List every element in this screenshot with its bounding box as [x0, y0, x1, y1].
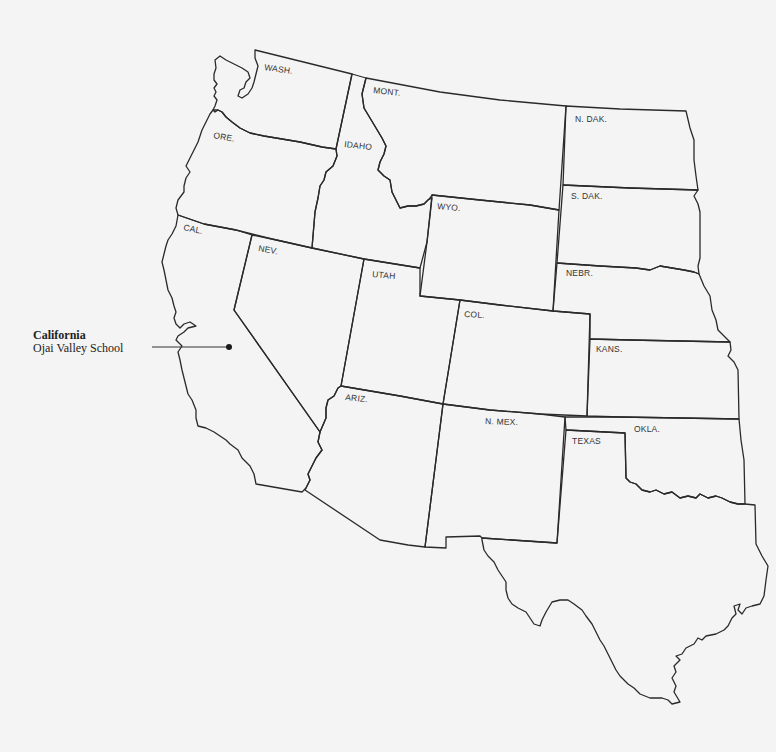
- location-marker[interactable]: [226, 344, 232, 350]
- state-label-nevada: NEV.: [258, 243, 279, 256]
- state-label-oklahoma: OKLA.: [634, 424, 660, 434]
- state-label-colorado: COL.: [464, 309, 485, 320]
- state-wyoming: [420, 195, 559, 311]
- state-montana: [362, 78, 566, 210]
- state-label-kansas: KANS.: [596, 344, 623, 354]
- state-label-california: CAL.: [183, 222, 204, 236]
- state-label-north-dakota: N. DAK.: [575, 114, 607, 124]
- state-label-washington: WASH.: [264, 62, 294, 76]
- callout-subtitle: Ojai Valley School: [33, 342, 123, 355]
- state-label-arizona: ARIZ.: [345, 392, 369, 404]
- state-label-wyoming: WYO.: [437, 201, 461, 213]
- state-label-texas: TEXAS: [572, 436, 601, 446]
- state-idaho: [312, 74, 432, 268]
- state-nevada: [234, 235, 364, 432]
- state-label-new-mexico: N. MEX.: [485, 416, 518, 427]
- western-us-map: WASH. ORE. CAL. NEV. IDAHO MONT. WYO. UT…: [0, 0, 776, 752]
- state-utah: [341, 259, 460, 404]
- state-label-oregon: ORE.: [213, 130, 236, 144]
- state-label-south-dakota: S. DAK.: [571, 191, 603, 201]
- state-texas: [482, 430, 768, 704]
- state-california: [162, 215, 322, 492]
- state-label-utah: UTAH: [372, 269, 396, 281]
- state-label-idaho: IDAHO: [344, 139, 373, 152]
- state-label-nebraska: NEBR.: [566, 268, 593, 278]
- state-label-montana: MONT.: [373, 85, 401, 98]
- state-arizona: [305, 386, 443, 547]
- location-callout: California Ojai Valley School: [33, 329, 123, 355]
